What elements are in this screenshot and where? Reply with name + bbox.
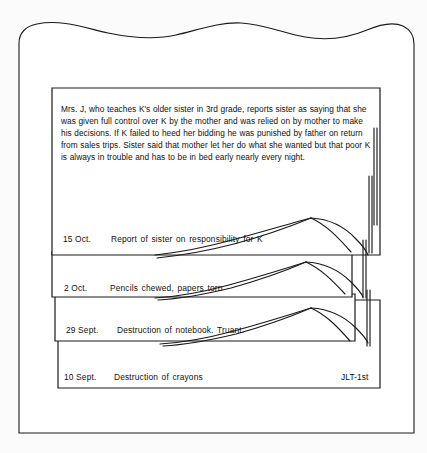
card-back-outline: [58, 300, 380, 388]
entry-date-15-oct: 15 Oct.: [63, 234, 91, 244]
entry-description-2-oct: Pencils chewed, papers torn: [110, 283, 223, 293]
entry-description-29-sept: Destruction of notebook. Truant.: [117, 325, 244, 335]
narrative-text: Mrs. J, who teaches K's older sister in …: [61, 103, 373, 163]
narrative-paragraph: Mrs. J, who teaches K's older sister in …: [61, 103, 373, 163]
card-file-line-art: [0, 0, 427, 453]
entry-date-2-oct: 2 Oct.: [64, 283, 87, 293]
entry-date-10-sept: 10 Sept.: [64, 372, 96, 382]
card-curl-2: [155, 262, 363, 300]
entry-description-15-oct: Report of sister on responsibility for K: [111, 234, 263, 244]
entry-description-10-sept: Destruction of crayons: [114, 372, 203, 382]
entry-code-jlt-1st: JLT-1st: [341, 372, 369, 382]
entry-date-29-sept: 29 Sept.: [66, 325, 98, 335]
card-file-figure: Mrs. J, who teaches K's older sister in …: [0, 0, 427, 453]
